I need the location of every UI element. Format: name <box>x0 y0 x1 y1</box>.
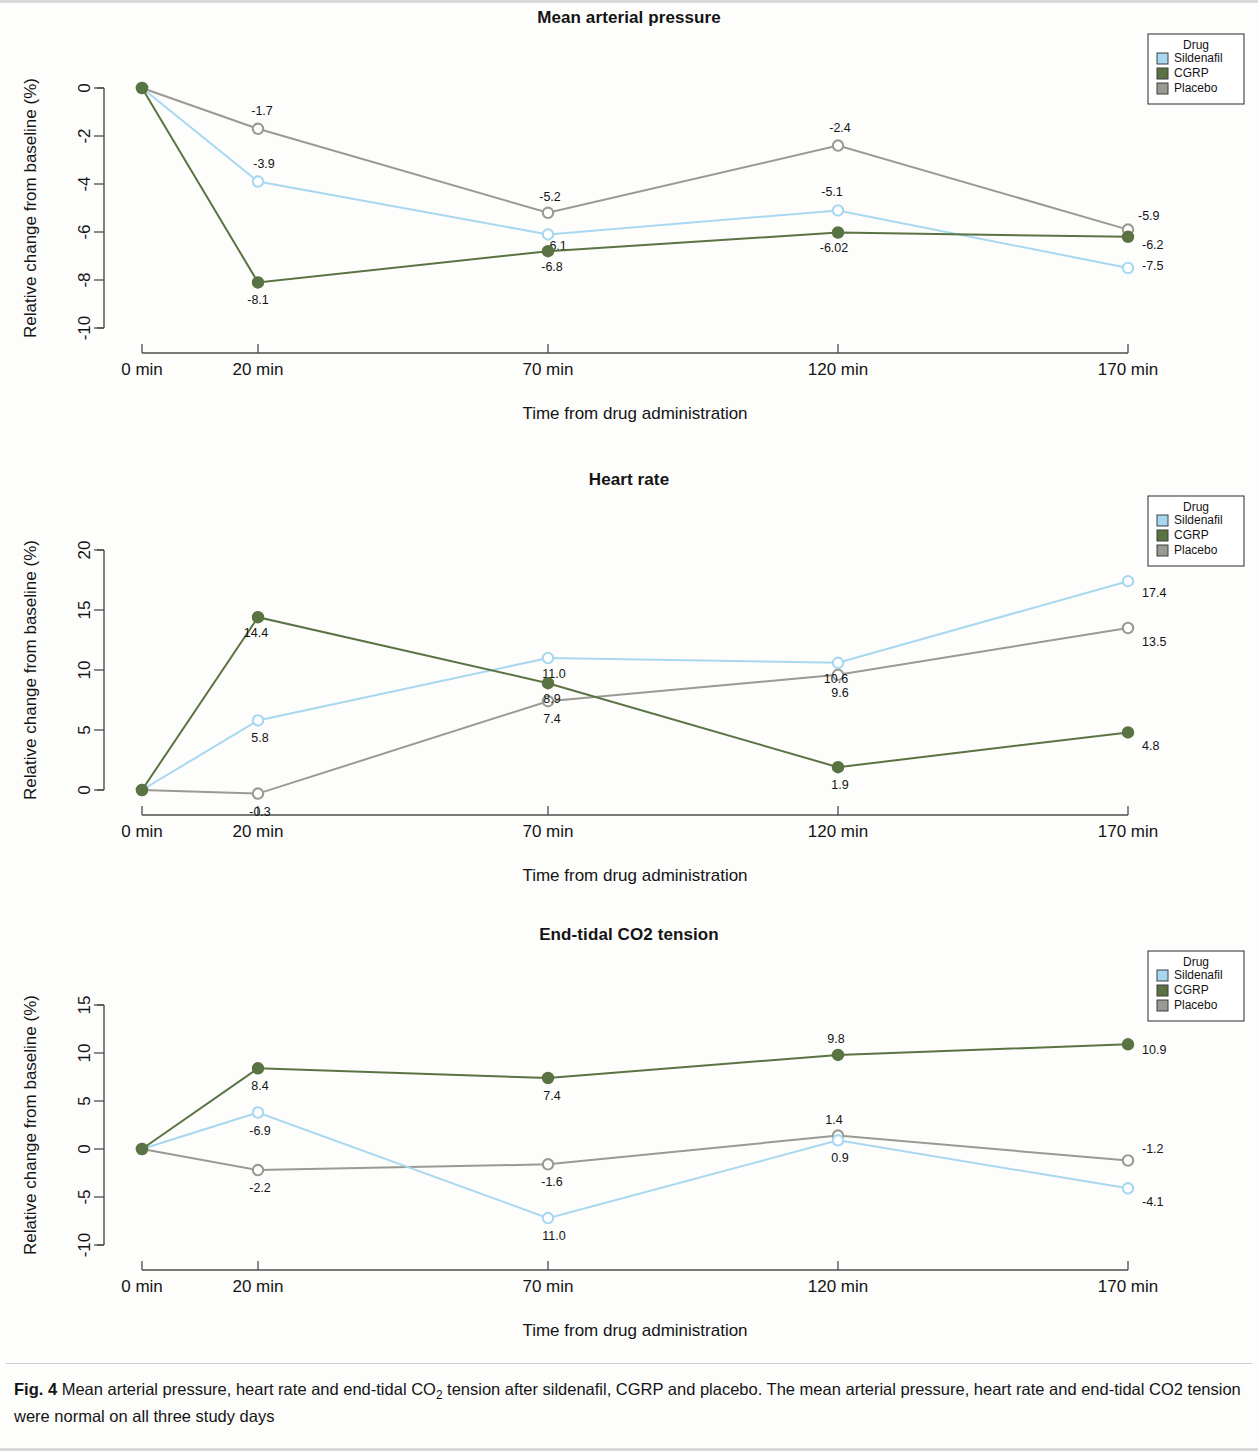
legend-swatch-sildenafil[interactable] <box>1157 515 1168 526</box>
y-tick-label-0: -6 <box>75 224 94 239</box>
x-axis-title-0: Time from drug administration <box>522 404 747 423</box>
data-label-cgrp: 10.9 <box>1142 1043 1166 1057</box>
figure-caption: Fig. 4 Mean arterial pressure, heart rat… <box>14 1378 1246 1428</box>
legend-swatch-placebo[interactable] <box>1157 545 1168 556</box>
data-label-sildenafil: -6.9 <box>249 1124 271 1138</box>
data-label-cgrp: 7.4 <box>543 1089 560 1103</box>
x-axis-title-1: Time from drug administration <box>522 866 747 885</box>
legend-swatch-cgrp[interactable] <box>1157 530 1168 541</box>
data-point-sildenafil <box>543 229 553 239</box>
data-point-sildenafil <box>1123 263 1133 273</box>
series-line-sildenafil <box>142 581 1128 790</box>
data-label-sildenafil: 0.9 <box>831 1151 848 1165</box>
data-label-placebo: -1.7 <box>251 104 273 118</box>
data-point-cgrp <box>543 678 553 688</box>
x-tick-label-0: 20 min <box>232 360 283 379</box>
legend-label-placebo[interactable]: Placebo <box>1174 998 1218 1012</box>
data-label-sildenafil: 5.8 <box>251 731 268 745</box>
data-label-placebo: -2.2 <box>249 1181 271 1195</box>
legend-swatch-placebo[interactable] <box>1157 83 1168 94</box>
legend-label-placebo[interactable]: Placebo <box>1174 81 1218 95</box>
legend-label-cgrp[interactable]: CGRP <box>1174 528 1209 542</box>
data-point-placebo <box>1123 623 1133 633</box>
legend-label-cgrp[interactable]: CGRP <box>1174 66 1209 80</box>
x-axis-0: 0 min20 min70 min120 min170 min <box>121 344 1158 379</box>
data-label-placebo: -2.4 <box>829 121 851 135</box>
series-placebo: -1.7-5.2-2.4-5.9 <box>137 83 1160 235</box>
chart-panel-heart-rate: Heart rate 20151050Relative change from … <box>0 470 1258 910</box>
chart-canvas-0: 0-2-4-6-8-10Relative change from baselin… <box>0 28 1258 448</box>
data-point-placebo <box>833 140 843 150</box>
y-tick-label-2: 5 <box>75 1096 94 1105</box>
data-point-sildenafil <box>543 1213 553 1223</box>
figure-caption-label: Fig. 4 <box>14 1380 57 1398</box>
x-tick-label-1: 120 min <box>808 822 868 841</box>
y-axis-1: 20151050 <box>75 541 105 795</box>
series-cgrp: 14.48.91.94.8 <box>137 612 1160 795</box>
legend-label-placebo[interactable]: Placebo <box>1174 543 1218 557</box>
data-label-placebo: -1.6 <box>541 1175 563 1189</box>
data-label-cgrp: 8.4 <box>251 1079 268 1093</box>
data-point-placebo <box>253 124 263 134</box>
data-label-sildenafil: -5.1 <box>821 185 843 199</box>
data-point-cgrp <box>253 277 263 287</box>
data-point-placebo <box>253 1165 263 1175</box>
legend-title: Drug <box>1183 38 1209 52</box>
y-tick-label-1: 20 <box>75 541 94 560</box>
chart-svg-2: 151050-5-10Relative change from baseline… <box>0 945 1258 1365</box>
data-label-cgrp: -8.1 <box>247 293 269 307</box>
data-point-cgrp <box>253 1063 263 1073</box>
series-sildenafil: 5.811.010.617.4 <box>137 576 1167 795</box>
data-label-placebo: -1.2 <box>1142 1142 1164 1156</box>
y-tick-label-0: -8 <box>75 272 94 287</box>
chart-panel-mean-arterial-pressure: Mean arterial pressure 0-2-4-6-8-10Relat… <box>0 8 1258 448</box>
legend-swatch-sildenafil[interactable] <box>1157 53 1168 64</box>
y-axis-title-0: Relative change from baseline (%) <box>21 78 40 338</box>
series-cgrp: 8.47.49.810.9 <box>137 1032 1167 1154</box>
data-label-cgrp: 1.9 <box>831 778 848 792</box>
series-line-sildenafil <box>142 88 1128 268</box>
x-tick-label-2: 120 min <box>808 1277 868 1296</box>
legend-label-sildenafil[interactable]: Sildenafil <box>1174 968 1223 982</box>
y-tick-label-0: -10 <box>75 316 94 341</box>
data-label-placebo: -0.3 <box>249 805 271 819</box>
y-axis-title-1: Relative change from baseline (%) <box>21 540 40 800</box>
legend-title: Drug <box>1183 955 1209 969</box>
x-axis-title-2: Time from drug administration <box>522 1321 747 1340</box>
x-axis-1: 0 min20 min70 min120 min170 min <box>121 806 1158 841</box>
data-point-placebo <box>543 1159 553 1169</box>
data-label-placebo: 7.4 <box>543 712 560 726</box>
legend-swatch-sildenafil[interactable] <box>1157 970 1168 981</box>
legend-1: DrugSildenafilCGRPPlacebo <box>1148 496 1244 566</box>
y-tick-label-0: -4 <box>75 176 94 191</box>
chart-title-0: Mean arterial pressure <box>0 8 1258 28</box>
chart-canvas-1: 20151050Relative change from baseline (%… <box>0 490 1258 910</box>
data-point-cgrp <box>137 1144 147 1154</box>
data-point-cgrp <box>833 762 843 772</box>
y-axis-0: 0-2-4-6-8-10 <box>75 83 105 340</box>
x-tick-label-1: 20 min <box>232 822 283 841</box>
data-label-sildenafil: 17.4 <box>1142 586 1166 600</box>
chart-title-2: End-tidal CO2 tension <box>0 925 1258 945</box>
data-point-sildenafil <box>1123 1183 1133 1193</box>
data-label-placebo: 9.6 <box>831 686 848 700</box>
data-point-sildenafil <box>833 205 843 215</box>
legend-swatch-cgrp[interactable] <box>1157 985 1168 996</box>
data-label-cgrp: -6.02 <box>820 241 849 255</box>
legend-swatch-placebo[interactable] <box>1157 1000 1168 1011</box>
data-label-cgrp: -6.2 <box>1142 238 1164 252</box>
data-label-sildenafil: -3.9 <box>253 157 275 171</box>
x-tick-label-2: 20 min <box>232 1277 283 1296</box>
legend-title: Drug <box>1183 500 1209 514</box>
chart-panel-end-tidal-co2-tension: End-tidal CO2 tension 151050-5-10Relativ… <box>0 925 1258 1365</box>
data-label-placebo: 1.4 <box>825 1113 842 1127</box>
data-point-cgrp <box>543 246 553 256</box>
legend-label-sildenafil[interactable]: Sildenafil <box>1174 513 1223 527</box>
legend-swatch-cgrp[interactable] <box>1157 68 1168 79</box>
x-axis-2: 0 min20 min70 min120 min170 min <box>121 1261 1158 1296</box>
figure-page: Mean arterial pressure 0-2-4-6-8-10Relat… <box>0 0 1258 1451</box>
legend-label-cgrp[interactable]: CGRP <box>1174 983 1209 997</box>
chart-canvas-2: 151050-5-10Relative change from baseline… <box>0 945 1258 1365</box>
data-point-cgrp <box>543 1073 553 1083</box>
legend-label-sildenafil[interactable]: Sildenafil <box>1174 51 1223 65</box>
